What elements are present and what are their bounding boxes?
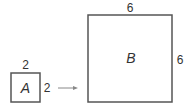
square-a-name: A (20, 80, 30, 96)
scaling-diagram: 2 2 A 6 6 B (0, 0, 189, 112)
square-a: 2 2 A (11, 58, 51, 102)
square-b-right-label: 6 (177, 53, 184, 67)
square-b-name: B (126, 50, 135, 66)
square-b-top-label: 6 (127, 1, 134, 15)
right-arrow-icon (58, 86, 78, 90)
square-b: 6 6 B (88, 1, 184, 102)
square-a-right-label: 2 (44, 81, 51, 95)
square-a-top-label: 2 (22, 58, 29, 72)
